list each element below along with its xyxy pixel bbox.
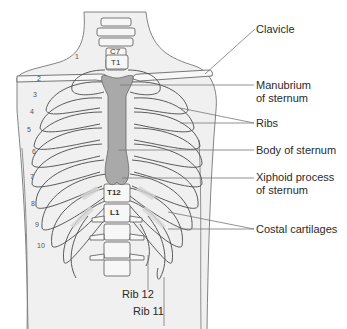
rib-number-2: 2: [37, 75, 41, 82]
rib-number-9: 9: [35, 221, 39, 228]
t12-label: T12: [107, 188, 121, 197]
t1-label: T1: [111, 58, 120, 67]
rib-number-10: 10: [37, 242, 45, 249]
label-rib-11: Rib 11: [133, 305, 164, 318]
l1-label: L1: [110, 208, 119, 217]
rib-number-1: 1: [75, 53, 79, 60]
rib-number-4: 4: [30, 108, 34, 115]
label-ribs: Ribs: [256, 117, 278, 130]
rib-number-3: 3: [33, 91, 37, 98]
ribcage-illustration: [0, 0, 347, 329]
label-manubrium-2: of sternum: [256, 92, 308, 105]
label-body-of-sternum: Body of sternum: [256, 144, 336, 157]
thoracic-cage-diagram: C7 T1 T12 L1 1 2 3 4 5 6 7 8 9 10 Clavic…: [0, 0, 347, 329]
label-rib-12: Rib 12: [122, 288, 154, 301]
rib-number-7: 7: [30, 173, 34, 180]
c7-label: C7: [110, 47, 120, 56]
label-costal-cartilages: Costal cartilages: [256, 223, 337, 236]
label-clavicle: Clavicle: [256, 23, 295, 36]
label-xiphoid-process: Xiphoid process: [256, 171, 334, 184]
rib-number-8: 8: [31, 200, 35, 207]
label-xiphoid-process-2: of sternum: [256, 184, 308, 197]
rib-number-5: 5: [27, 126, 31, 133]
rib-number-6: 6: [32, 148, 36, 155]
label-manubrium: Manubrium: [256, 79, 311, 92]
